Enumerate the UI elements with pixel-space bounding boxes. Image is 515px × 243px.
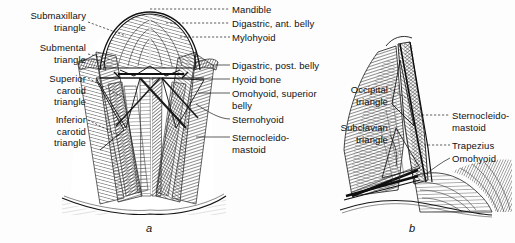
label-trapezius: Trapezius (452, 140, 494, 152)
label-omohyoid-superior-belly: Omohyoid, superior belly (232, 88, 317, 111)
label-hyoid-bone: Hyoid bone (232, 74, 281, 86)
leader-superior-carotid (88, 78, 124, 98)
leader-sternohyoid (196, 104, 230, 119)
label-sternohyoid: Sternohyoid (232, 114, 284, 126)
label-subclavian-triangle: Subclavian triangle (302, 122, 388, 145)
label-omohyoid-b: Omohyoid (452, 153, 496, 165)
label-submental-triangle: Submental triangle (2, 42, 86, 65)
leader-inferior-carotid (88, 120, 120, 136)
label-submaxillary-triangle: Submaxillary triangle (2, 10, 86, 33)
label-digastric-anterior-belly: Digastric, ant. belly (232, 18, 314, 30)
leader-submental-triangle (88, 54, 112, 60)
leader-submaxillary-triangle (88, 22, 126, 36)
leader-subclavian-triangle (390, 135, 397, 166)
label-inferior-carotid-triangle: Inferior carotid triangle (2, 114, 86, 149)
label-mylohyoid: Mylohyoid (232, 32, 276, 44)
label-digastric-posterior-belly: Digastric, post. belly (232, 60, 319, 72)
panel-a-artwork (62, 12, 226, 216)
label-sternocleidomastoid-b: Sternocleido- mastoid (452, 110, 509, 133)
label-superior-carotid-triangle: Superior carotid triangle (2, 73, 86, 108)
figure-page: Submaxillary triangle Submental triangle… (0, 0, 515, 243)
leader-omohyoid-b (426, 158, 450, 174)
figure-caption-a: a (146, 222, 152, 234)
label-sternocleidomastoid-a: Sternocleido- mastoid (232, 132, 289, 155)
label-occipital-triangle: Occipital triangle (322, 84, 388, 107)
label-mandible: Mandible (232, 4, 271, 16)
leader-occipital-triangle (390, 89, 406, 98)
figure-caption-b: b (409, 222, 415, 234)
